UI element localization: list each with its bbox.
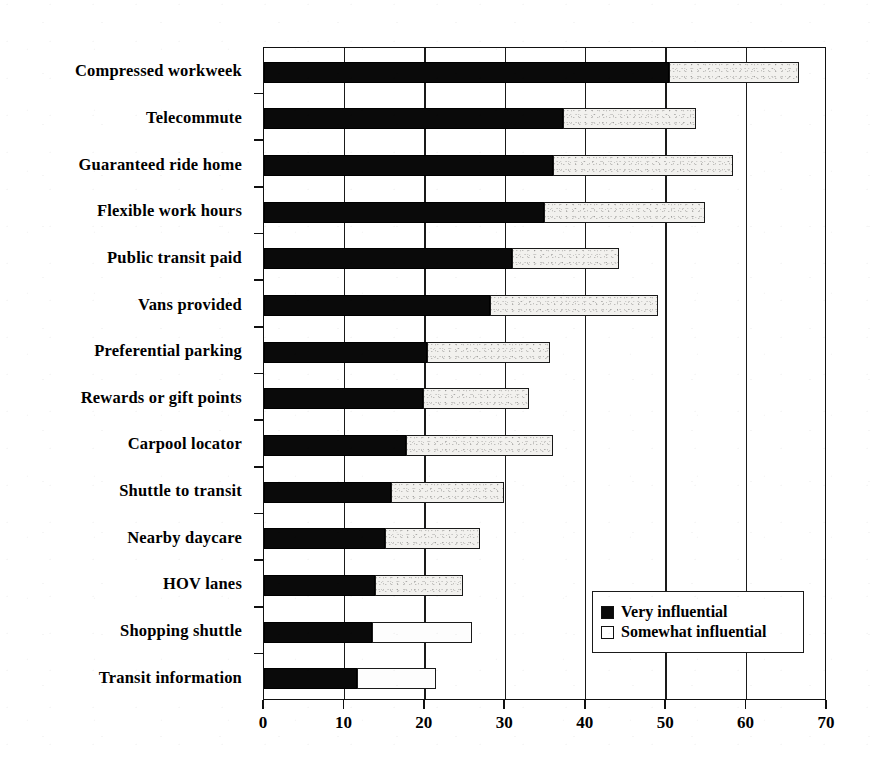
category-label: Nearby daycare [0,530,242,547]
gridline [424,48,426,699]
bar-segment-very-influential [264,622,372,643]
x-axis-tick [584,700,586,709]
bar-row [264,668,827,689]
bar-row [264,528,827,549]
y-axis-tick [254,419,263,421]
category-label: Telecommute [0,110,242,127]
bar-row [264,388,827,409]
bar-segment-somewhat-influential [512,248,620,269]
bar-segment-somewhat-influential [391,482,504,503]
y-axis-tick [254,513,263,515]
x-axis-tick [503,700,505,709]
bar-segment-very-influential [264,62,669,83]
legend-item-very-influential: Very influential [601,604,797,620]
y-axis-tick [254,653,263,655]
category-label: Flexible work hours [0,203,242,220]
chart-legend: Very influential Somewhat influential [592,591,804,653]
x-axis-tick-label: 30 [474,714,534,731]
x-axis-tick [423,700,425,709]
y-axis-tick [254,466,263,468]
bar-segment-very-influential [264,528,385,549]
x-axis-tick-label: 20 [394,714,454,731]
bar-segment-very-influential [264,575,375,596]
x-axis-tick [745,700,747,709]
x-axis-tick-label: 60 [716,714,776,731]
bar-segment-somewhat-influential [427,342,550,363]
bar-segment-somewhat-influential [372,622,473,643]
y-axis-tick [254,373,263,375]
bar-segment-somewhat-influential [669,62,798,83]
category-label: Shopping shuttle [0,623,242,640]
x-axis-tick-label: 70 [796,714,856,731]
x-axis-tick-label: 50 [635,714,695,731]
bar-segment-very-influential [264,155,553,176]
x-axis-tick-label: 0 [233,714,293,731]
gridline [505,48,507,699]
bar-segment-somewhat-influential [357,668,436,689]
y-axis-tick [254,606,263,608]
gridline [344,48,346,699]
bar-segment-somewhat-influential [375,575,463,596]
bar-row [264,62,827,83]
y-axis-tick [254,186,263,188]
x-axis-tick [825,700,827,709]
legend-label-somewhat-influential: Somewhat influential [621,624,766,640]
x-axis-tick [664,700,666,709]
category-label: Public transit paid [0,250,242,267]
y-axis-tick [254,559,263,561]
bar-segment-somewhat-influential [423,388,529,409]
bar-row [264,202,827,223]
y-axis-tick [254,233,263,235]
bar-segment-somewhat-influential [544,202,705,223]
legend-swatch-filled-icon [601,606,614,619]
bar-segment-somewhat-influential [490,295,658,316]
x-axis-tick-label: 40 [555,714,615,731]
bar-row [264,435,827,456]
x-axis-tick-label: 10 [313,714,373,731]
bar-segment-very-influential [264,202,544,223]
bar-segment-very-influential [264,482,391,503]
bar-row [264,155,827,176]
category-label: Compressed workweek [0,63,242,80]
category-label: Guaranteed ride home [0,157,242,174]
category-label: Preferential parking [0,343,242,360]
legend-label-very-influential: Very influential [621,604,728,620]
category-label: Rewards or gift points [0,390,242,407]
stacked-bar-chart: Compressed workweekTelecommuteGuaranteed… [0,0,874,766]
legend-swatch-hollow-icon [601,626,614,639]
bar-segment-somewhat-influential [563,108,696,129]
y-axis-tick [254,93,263,95]
bar-row [264,342,827,363]
bar-segment-very-influential [264,248,512,269]
gridline [585,48,587,699]
bar-segment-very-influential [264,108,563,129]
y-axis-tick [254,139,263,141]
bar-segment-very-influential [264,668,357,689]
x-axis-tick [262,700,264,709]
category-label: Vans provided [0,297,242,314]
bar-segment-very-influential [264,295,490,316]
bar-segment-somewhat-influential [406,435,553,456]
bar-row [264,295,827,316]
y-axis-tick [254,326,263,328]
bar-segment-somewhat-influential [553,155,733,176]
category-label: Shuttle to transit [0,483,242,500]
bar-segment-somewhat-influential [385,528,480,549]
bar-row [264,482,827,503]
x-axis: 010203040506070 [263,700,826,746]
category-label: Carpool locator [0,436,242,453]
category-label: HOV lanes [0,576,242,593]
x-axis-tick [343,700,345,709]
y-axis-tick [254,279,263,281]
bar-segment-very-influential [264,342,427,363]
category-label: Transit information [0,670,242,687]
category-axis-labels: Compressed workweekTelecommuteGuaranteed… [0,47,252,700]
bar-segment-very-influential [264,388,423,409]
bar-row [264,248,827,269]
legend-item-somewhat-influential: Somewhat influential [601,624,797,640]
bar-segment-very-influential [264,435,406,456]
bar-row [264,108,827,129]
